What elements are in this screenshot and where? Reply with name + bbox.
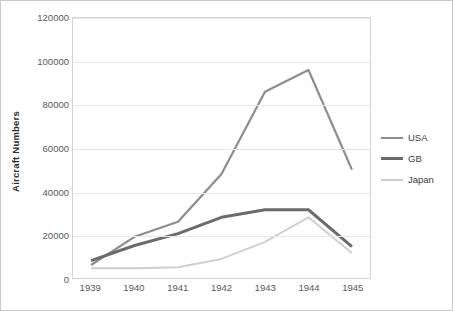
series-line-gb [91, 210, 352, 261]
legend-item-usa[interactable]: USA [381, 127, 451, 148]
gridline [73, 105, 370, 106]
series-lines [73, 18, 370, 278]
y-axis-tick-labels: 020000400006000080000100000120000 [25, 1, 69, 311]
x-axis-tick-label: 1940 [123, 282, 144, 293]
gridline [73, 62, 370, 63]
x-axis-tick-label: 1945 [342, 282, 363, 293]
legend-item-japan[interactable]: Japan [381, 169, 451, 190]
y-axis-tick-label: 60000 [25, 143, 69, 154]
gridline [73, 193, 370, 194]
plot-area [72, 17, 371, 279]
x-axis-tick-label: 1944 [298, 282, 319, 293]
y-axis-tick-label: 120000 [25, 12, 69, 23]
gridline [73, 236, 370, 237]
legend-swatch-icon [381, 179, 403, 181]
x-axis-tick-label: 1941 [167, 282, 188, 293]
y-axis-tick-label: 0 [25, 274, 69, 285]
y-axis-tick-label: 100000 [25, 55, 69, 66]
y-axis-tick-label: 20000 [25, 230, 69, 241]
legend-label: USA [408, 132, 428, 143]
x-axis-tick-label: 1942 [211, 282, 232, 293]
series-line-japan [91, 217, 352, 268]
gridline [73, 149, 370, 150]
x-axis-tick-label: 1939 [80, 282, 101, 293]
y-axis-tick-label: 80000 [25, 99, 69, 110]
y-axis-tick-label: 40000 [25, 186, 69, 197]
chart-legend: USAGBJapan [381, 127, 451, 190]
legend-label: Japan [408, 174, 434, 185]
gridline [73, 18, 370, 19]
x-axis-tick-labels: 1939194019411942194319441945 [72, 282, 371, 304]
y-axis-title: Aircraft Numbers [5, 91, 25, 211]
x-axis-tick-label: 1943 [255, 282, 276, 293]
legend-item-gb[interactable]: GB [381, 148, 451, 169]
legend-swatch-icon [381, 157, 403, 160]
chart-container: Aircraft Numbers 02000040000600008000010… [0, 0, 453, 311]
legend-swatch-icon [381, 137, 403, 139]
y-axis-title-label: Aircraft Numbers [10, 111, 21, 192]
legend-label: GB [408, 153, 422, 164]
